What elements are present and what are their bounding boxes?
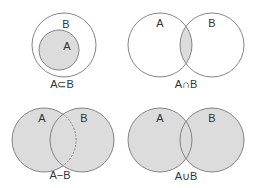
caption-union: A∪B [175,170,198,182]
set-a-label: A [38,112,46,124]
set-b-label: B [208,112,215,124]
set-a-label: A [63,40,71,52]
venn-intersection: A B A∩B [128,13,244,90]
caption-subset: A⊂B [50,78,74,90]
venn-difference: A B A−B [12,108,114,181]
set-a-label: A [156,112,164,124]
set-a-label: A [156,17,164,29]
set-b-label: B [208,17,215,29]
caption-difference: A−B [49,169,70,181]
set-b-label: B [80,112,87,124]
caption-intersection: A∩B [175,78,198,90]
set-a-circle [39,30,79,70]
set-b-label: B [62,18,69,30]
venn-diagrams: B A A⊂B A B A∩B A B A−B A B A∪B [0,0,253,188]
venn-subset: B A A⊂B [32,13,96,90]
venn-union: A B A∪B [128,108,244,182]
